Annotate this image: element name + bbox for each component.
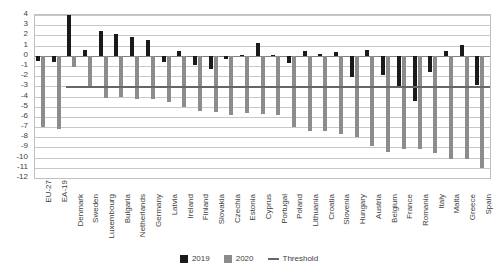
bar-group — [66, 15, 82, 178]
bar-2020-belgium — [386, 56, 390, 152]
bar-group — [192, 15, 208, 178]
gridline — [35, 178, 490, 179]
bar-2020-sweden — [88, 56, 92, 88]
x-axis-tick-label: Slovakia — [218, 194, 226, 224]
bar-group — [443, 15, 459, 178]
bar-2020-slovakia — [214, 56, 218, 112]
bar-2020-denmark — [72, 56, 76, 67]
bar-2019-hungary — [350, 56, 354, 77]
bar-2019-netherlands — [130, 37, 134, 55]
x-axis-tick-label: Latvia — [171, 194, 179, 215]
y-axis-tick-label: -10 — [16, 153, 28, 161]
legend-item-2020[interactable]: 2020 — [224, 254, 254, 263]
bar-2020-france — [402, 56, 406, 150]
bar-2019-latvia — [162, 56, 166, 62]
bar-group — [349, 15, 365, 178]
x-axis-tick-label: Portugal — [281, 194, 289, 224]
bar-2020-portugal — [276, 56, 280, 115]
legend-item-threshold[interactable]: Threshold — [268, 254, 319, 263]
x-axis-tick-label: Italy — [438, 194, 446, 209]
bar-2019-cyprus — [256, 43, 260, 56]
legend-swatch-icon — [224, 255, 232, 263]
y-axis-tick-label: -7 — [21, 122, 28, 130]
y-axis-tick-label: -5 — [21, 102, 28, 110]
chart-legend: 20192020Threshold — [0, 254, 498, 263]
bar-2020-cyprus — [261, 56, 265, 114]
bar-group — [98, 15, 114, 178]
y-axis-tick-label: 4 — [24, 10, 28, 18]
bar-2019-eu-27 — [36, 56, 40, 61]
x-axis-tick-label: Romania — [422, 194, 430, 226]
bar-2019-bulgaria — [114, 34, 118, 55]
x-axis-tick-label: Netherlands — [139, 194, 147, 237]
bar-2020-finland — [198, 56, 202, 111]
x-axis: EU-27EA-19DenmarkSwedenLuxembourgBulgari… — [34, 180, 491, 252]
y-axis-tick-label: 1 — [24, 41, 28, 49]
bar-group — [129, 15, 145, 178]
x-axis-tick-label: Ireland — [187, 194, 195, 218]
bar-group — [333, 15, 349, 178]
bar-2020-italy — [433, 56, 437, 153]
bar-2019-czechia — [224, 56, 228, 59]
y-axis-tick-label: -6 — [21, 112, 28, 120]
x-axis-tick-label: Cyprus — [265, 194, 273, 219]
bar-group — [286, 15, 302, 178]
y-axis-tick-label: -1 — [21, 61, 28, 69]
bar-2020-estonia — [245, 56, 249, 113]
legend-label: 2019 — [192, 254, 210, 263]
x-axis-tick-label: Bulgaria — [124, 194, 132, 223]
bar-2019-ea-19 — [52, 56, 56, 62]
bar-group — [239, 15, 255, 178]
bar-group — [223, 15, 239, 178]
y-axis-tick-label: -12 — [16, 173, 28, 181]
y-axis-tick-label: -8 — [21, 132, 28, 140]
x-axis-tick-label: Belgium — [391, 194, 399, 223]
y-axis-tick-label: -3 — [21, 81, 28, 89]
bar-2020-poland — [292, 56, 296, 127]
bar-2020-romania — [418, 56, 422, 150]
bar-2019-italy — [428, 56, 432, 72]
bar-group — [51, 15, 67, 178]
legend-item-2019[interactable]: 2019 — [180, 254, 210, 263]
bar-2020-croatia — [323, 56, 327, 131]
x-axis-tick-label: Poland — [296, 194, 304, 219]
bar-2020-lithuania — [308, 56, 312, 131]
x-axis-tick-label: Slovenia — [343, 194, 351, 225]
bar-2020-czechia — [229, 56, 233, 115]
bar-2020-malta — [449, 56, 453, 159]
bar-2020-austria — [370, 56, 374, 147]
bar-2019-lithuania — [303, 51, 307, 56]
bar-group — [396, 15, 412, 178]
bar-2019-luxembourg — [99, 31, 103, 55]
bar-2020-eu-27 — [41, 56, 45, 127]
bar-group — [302, 15, 318, 178]
x-axis-tick-label: Malta — [453, 194, 461, 214]
bar-2019-croatia — [318, 54, 322, 56]
bar-2020-netherlands — [135, 56, 139, 99]
bar-2019-ireland — [177, 51, 181, 56]
bar-2019-germany — [146, 40, 150, 55]
legend-label: Threshold — [283, 254, 319, 263]
bar-2020-bulgaria — [119, 56, 123, 97]
x-axis-tick-label: EA-19 — [61, 180, 69, 202]
bar-2019-denmark — [67, 15, 71, 56]
x-axis-tick-label: Estonia — [249, 194, 257, 221]
x-axis-tick-label: Spain — [485, 194, 493, 214]
bar-group — [412, 15, 428, 178]
bar-2020-spain — [480, 56, 484, 168]
bar-2019-sweden — [83, 50, 87, 56]
chart-container: 43210-1-2-3-4-5-6-7-8-9-10-11-12 EU-27EA… — [0, 0, 498, 276]
plot-area — [34, 14, 491, 179]
bar-2019-slovakia — [209, 56, 213, 69]
bar-group — [145, 15, 161, 178]
bar-2019-poland — [287, 56, 291, 63]
bar-group — [364, 15, 380, 178]
y-axis-tick-label: 2 — [24, 30, 28, 38]
bar-group — [113, 15, 129, 178]
bar-group — [35, 15, 51, 178]
bar-2019-spain — [475, 56, 479, 86]
bar-2019-austria — [365, 50, 369, 56]
bar-2020-ea-19 — [57, 56, 61, 129]
y-axis-tick-label: -9 — [21, 142, 28, 150]
bar-group — [474, 15, 490, 178]
